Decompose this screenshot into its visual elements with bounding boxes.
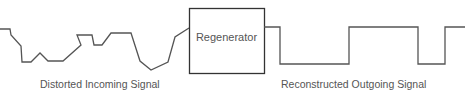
signal-regeneration-diagram: Regenerator Distorted Incoming Signal Re… (0, 0, 465, 93)
regenerator-label: Regenerator (189, 4, 264, 69)
outgoing-signal-caption: Reconstructed Outgoing Signal (281, 78, 426, 90)
reconstructed-outgoing-wave (264, 27, 465, 64)
distorted-incoming-wave (0, 28, 189, 70)
incoming-signal-caption: Distorted Incoming Signal (40, 78, 160, 90)
